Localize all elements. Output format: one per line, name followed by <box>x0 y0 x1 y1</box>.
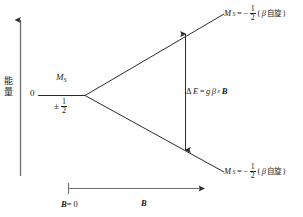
zero-level-quantum-number: MS <box>56 73 67 84</box>
upper-state-greek-beta: β <box>262 9 266 18</box>
energy-axis-label-char-2: 量 <box>1 87 16 98</box>
g-factor-symbol: g <box>206 87 210 96</box>
lower-state-sign: − <box>243 167 248 176</box>
zero-level-m-subscript: S <box>64 76 67 83</box>
upper-state-paren-open: ( <box>257 10 260 18</box>
energy-axis-label: 能 量 <box>1 76 16 98</box>
zero-level-sign: ± <box>54 102 59 111</box>
energy-symbol: E <box>193 87 198 96</box>
lower-state-spin-text: 自旋 <box>267 168 281 176</box>
zero-level-fraction: 1 2 <box>61 98 67 115</box>
bohr-magneton-symbol: β <box>212 87 216 96</box>
lower-state-paren-close: ) <box>283 168 286 176</box>
upper-state-m-subscript: S <box>233 11 236 17</box>
lower-state-denominator: 2 <box>250 171 256 180</box>
upper-state-denominator: 2 <box>250 13 256 22</box>
zero-level-m-symbol: M <box>56 72 64 82</box>
lower-state-numerator: 1 <box>250 163 256 171</box>
upper-state-label: MS = − 1 2 (β自旋) <box>224 5 286 22</box>
lower-state-paren-open: ( <box>257 168 260 176</box>
upper-state-paren-close: ) <box>283 10 286 18</box>
delta-e-equals: = <box>200 87 205 96</box>
upper-branch-line <box>85 14 224 96</box>
zeeman-splitting-diagram: 能 量 0 MS ± 1 2 MS = − 1 2 (β自旋) MS = − 1… <box>0 0 303 217</box>
zero-energy-label: 0 <box>30 89 35 98</box>
field-origin-value: = 0 <box>67 199 78 209</box>
lower-state-greek-beta: β <box>262 167 266 176</box>
lower-state-equals: = <box>237 167 242 176</box>
lower-branch-line <box>85 96 224 173</box>
delta-symbol: Δ <box>186 87 191 96</box>
upper-state-spin-text: 自旋 <box>267 10 281 18</box>
energy-axis-label-char-1: 能 <box>1 76 16 87</box>
zero-level-numerator: 1 <box>61 98 67 106</box>
field-axis-label: B <box>141 199 147 208</box>
lower-state-m-subscript: S <box>233 169 236 175</box>
field-symbol-in-expression: B <box>222 87 228 96</box>
upper-state-m-symbol: M <box>224 9 231 18</box>
bohr-magneton-subscript: e <box>217 88 220 94</box>
zero-level-denominator: 2 <box>61 106 67 115</box>
upper-state-equals: = <box>237 9 242 18</box>
field-origin-label: B= 0 <box>61 200 78 209</box>
zero-level-value: ± 1 2 <box>54 98 67 115</box>
upper-state-numerator: 1 <box>250 5 256 13</box>
lower-state-label: MS = − 1 2 (β自旋) <box>224 163 286 180</box>
delta-e-expression: ΔE = gβeB <box>186 87 227 96</box>
upper-state-fraction: 1 2 <box>250 5 256 22</box>
lower-state-m-symbol: M <box>224 167 231 176</box>
lower-state-fraction: 1 2 <box>250 163 256 180</box>
diagram-lines <box>0 0 303 217</box>
upper-state-sign: − <box>243 9 248 18</box>
